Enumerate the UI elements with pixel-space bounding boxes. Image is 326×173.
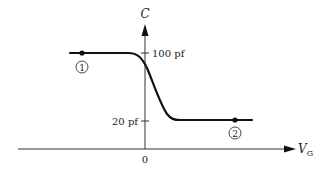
- y-axis-label: C: [140, 7, 149, 21]
- cv-curve: [70, 53, 252, 120]
- x-axis-arrow-icon: [284, 146, 296, 153]
- y-axis-arrow-icon: [142, 24, 149, 36]
- point-1-label: 1: [79, 63, 85, 73]
- tick-label-20pf: 20 pf: [112, 116, 139, 127]
- tick-label-100pf: 100 pf: [152, 48, 186, 59]
- point-2-marker: [232, 117, 237, 122]
- point-2-label: 2: [232, 129, 238, 139]
- x-axis-label: VG: [298, 142, 313, 158]
- capacitance-voltage-diagram: VG 0 C 100 pf 20 pf 1 2: [0, 0, 326, 173]
- origin-label: 0: [142, 154, 148, 165]
- point-1-marker: [79, 50, 84, 55]
